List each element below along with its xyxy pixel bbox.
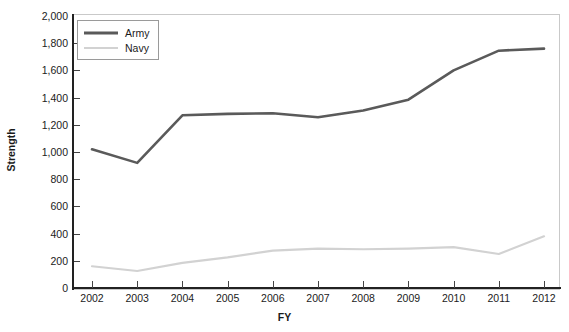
chart-legend: Army Navy — [77, 20, 159, 60]
legend-swatch-navy — [84, 43, 118, 53]
y-tick-label: 600 — [18, 200, 68, 212]
y-tick-label: 1,600 — [18, 64, 68, 76]
legend-item-army: Army — [84, 25, 150, 40]
y-tick-label: 1,800 — [18, 37, 68, 49]
y-tick-label: 800 — [18, 173, 68, 185]
line-chart: Strength 02004006008001,0001,2001,4001,6… — [0, 0, 569, 332]
y-tick-label: 2,000 — [18, 10, 68, 22]
y-tick-label: 200 — [18, 255, 68, 267]
legend-label-army: Army — [125, 27, 150, 39]
y-tick-label: 1,000 — [18, 146, 68, 158]
legend-item-navy: Navy — [84, 40, 150, 55]
y-tick-label: 0 — [18, 282, 68, 294]
y-tick-label: 400 — [18, 228, 68, 240]
legend-line-army-icon — [84, 31, 118, 34]
legend-swatch-army — [84, 28, 118, 38]
y-tick-label: 1,400 — [18, 92, 68, 104]
series-line-army — [92, 49, 544, 163]
y-tick-label: 1,200 — [18, 119, 68, 131]
legend-line-navy-icon — [84, 47, 118, 49]
y-axis-tick-labels: 02004006008001,0001,2001,4001,6001,8002,… — [18, 16, 68, 288]
x-axis-title: FY — [0, 311, 569, 323]
x-tick-label: 2012 — [514, 292, 569, 304]
y-axis-title-text: Strength — [5, 128, 17, 171]
legend-label-navy: Navy — [125, 42, 149, 54]
series-line-navy — [92, 236, 544, 271]
